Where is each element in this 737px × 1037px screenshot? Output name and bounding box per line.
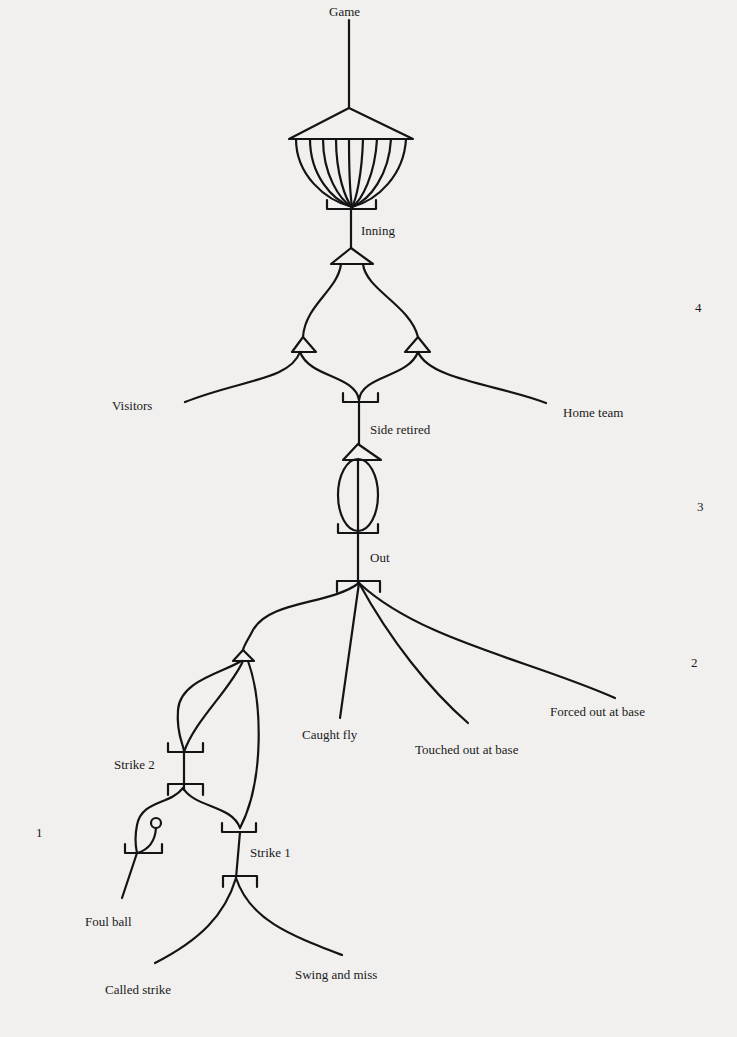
label-called-strike: Called strike: [105, 982, 171, 997]
repeat-loop-icon: [151, 818, 161, 828]
sequence-triangle-icon: [292, 337, 316, 352]
game-node: [289, 20, 413, 248]
choice-bracket-icon: [168, 784, 203, 795]
caught-fly-branch: [340, 583, 359, 718]
visitors-branch: [185, 352, 300, 402]
sequence-triangle-icon: [405, 337, 430, 352]
label-strike-2: Strike 2: [114, 757, 155, 772]
forced-out-branch: [359, 583, 615, 698]
label-strike-1: Strike 1: [250, 845, 291, 860]
baseball-plan-diagram: Game Inning Visitors Home team Side reti…: [0, 0, 737, 1037]
swing-miss-branch: [236, 878, 342, 955]
label-home-team: Home team: [563, 405, 623, 420]
iteration-triangle-icon: [343, 444, 381, 460]
level-marker-2: 2: [691, 655, 698, 670]
out-node: [168, 581, 615, 828]
label-forced-out: Forced out at base: [550, 704, 645, 719]
home-branch: [418, 352, 546, 403]
level-marker-3: 3: [697, 499, 704, 514]
label-game: Game: [329, 4, 360, 19]
label-side-retired: Side retired: [370, 422, 431, 437]
inning-node: [185, 248, 546, 444]
label-inning: Inning: [361, 223, 395, 238]
sequence-triangle-icon: [331, 248, 373, 264]
touched-out-branch: [359, 583, 468, 723]
strike-1-node: [155, 876, 342, 963]
level-marker-1: 1: [36, 825, 43, 840]
level-marker-4: 4: [695, 300, 702, 315]
label-visitors: Visitors: [112, 398, 152, 413]
label-swing-and-miss: Swing and miss: [295, 967, 377, 982]
iteration-triangle-icon: [289, 108, 413, 139]
called-strike-branch: [155, 878, 236, 963]
sequence-triangle-icon: [233, 650, 254, 661]
label-caught-fly: Caught fly: [302, 727, 358, 742]
label-foul-ball: Foul ball: [85, 914, 132, 929]
foul-ball-branch: [122, 853, 137, 898]
nine-inning-fan: [296, 139, 406, 207]
label-out: Out: [370, 550, 390, 565]
label-touched-out: Touched out at base: [415, 742, 519, 757]
